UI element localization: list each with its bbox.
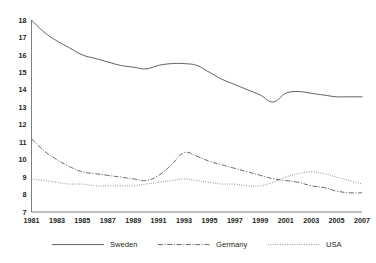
axis-lines xyxy=(32,20,363,212)
y-tick-label: 13 xyxy=(19,103,27,112)
y-tick-label: 9 xyxy=(23,173,27,182)
chart-legend: SwedenGermanyUSA xyxy=(52,240,343,249)
legend-label-germany: Germany xyxy=(216,240,247,249)
x-tick-label: 2007 xyxy=(354,216,370,225)
y-tick-label: 11 xyxy=(19,138,27,147)
x-tick-label: 1997 xyxy=(227,216,243,225)
x-tick-label: 1983 xyxy=(49,216,65,225)
x-axis-tick-labels: 1981198319851987198919911993199519971999… xyxy=(24,216,371,225)
chart-canvas: 181716151413121110987 198119831985198719… xyxy=(0,0,376,263)
series-line-sweden xyxy=(32,20,363,102)
y-tick-label: 15 xyxy=(19,68,27,77)
y-axis-tick-labels: 181716151413121110987 xyxy=(19,16,27,217)
y-tick-label: 14 xyxy=(19,85,27,94)
y-tick-label: 17 xyxy=(19,33,27,42)
x-tick-label: 1981 xyxy=(24,216,40,225)
y-tick-label: 18 xyxy=(19,16,27,25)
x-tick-label: 1989 xyxy=(125,216,141,225)
x-tick-label: 2001 xyxy=(278,216,294,225)
y-tick-label: 12 xyxy=(19,120,27,129)
axes xyxy=(32,20,363,212)
x-tick-label: 1985 xyxy=(74,216,90,225)
x-tick-label: 1987 xyxy=(100,216,116,225)
line-chart: 181716151413121110987 198119831985198719… xyxy=(0,0,376,263)
x-tick-label: 2005 xyxy=(329,216,345,225)
y-tick-label: 16 xyxy=(19,51,27,60)
x-tick-label: 1995 xyxy=(201,216,217,225)
x-tick-label: 1991 xyxy=(151,216,167,225)
legend-label-sweden: Sweden xyxy=(110,240,137,249)
x-tick-label: 1993 xyxy=(176,216,192,225)
x-tick-label: 2003 xyxy=(303,216,319,225)
series-line-usa xyxy=(32,172,363,186)
series-line-germany xyxy=(32,139,363,193)
data-series-layer xyxy=(32,20,363,193)
y-tick-label: 10 xyxy=(19,155,27,164)
y-tick-label: 8 xyxy=(23,190,27,199)
legend-label-usa: USA xyxy=(326,240,343,249)
x-tick-label: 1999 xyxy=(252,216,268,225)
